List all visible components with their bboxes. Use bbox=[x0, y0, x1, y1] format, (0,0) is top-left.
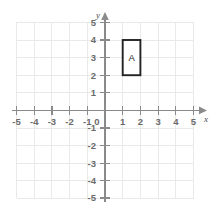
ticklabel-y--1: -1 bbox=[88, 122, 97, 133]
shape-a-group: A bbox=[123, 40, 141, 75]
ticklabel-x-3: 3 bbox=[155, 116, 160, 127]
coordinate-plane-svg: -5 -4 -3 -2 -1 1 2 3 4 5 0 5 4 3 2 1 -1 … bbox=[0, 0, 214, 207]
ticklabel-y--5: -5 bbox=[88, 192, 97, 203]
coordinate-plane-figure: -5 -4 -3 -2 -1 1 2 3 4 5 0 5 4 3 2 1 -1 … bbox=[0, 0, 214, 207]
ticklabel-x--4: -4 bbox=[30, 116, 39, 127]
ticklabel-y-1: 1 bbox=[91, 87, 97, 98]
y-axis-label: y bbox=[95, 10, 100, 20]
ticklabel-y--3: -3 bbox=[88, 158, 96, 169]
ticklabel-y-2: 2 bbox=[91, 70, 96, 81]
ticklabel-y-4: 4 bbox=[91, 34, 97, 45]
ticklabel-x-2: 2 bbox=[138, 116, 143, 127]
x-axis-label: x bbox=[203, 114, 208, 124]
y-axis-arrowhead bbox=[101, 12, 109, 20]
ticklabel-x--5: -5 bbox=[12, 116, 21, 127]
ticklabel-x-5: 5 bbox=[191, 116, 197, 127]
ticklabel-x--3: -3 bbox=[48, 116, 56, 127]
ticklabel-x--2: -2 bbox=[65, 116, 73, 127]
ticklabel-y--4: -4 bbox=[88, 175, 97, 186]
ticklabel-y-3: 3 bbox=[91, 52, 96, 63]
ticklabel-y--2: -2 bbox=[88, 140, 96, 151]
ticklabel-x-1: 1 bbox=[120, 116, 126, 127]
ticklabel-x-4: 4 bbox=[173, 116, 179, 127]
shape-a-label: A bbox=[128, 52, 135, 63]
